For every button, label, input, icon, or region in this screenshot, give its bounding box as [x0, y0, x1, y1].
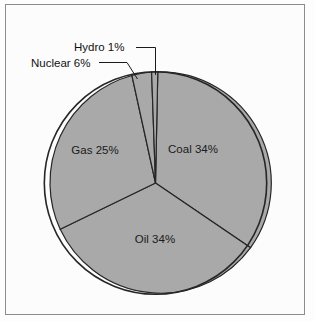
- coal-slice-label: Coal 34%: [168, 143, 218, 155]
- oil-slice-label: Oil 34%: [135, 233, 175, 245]
- nuclear-callout-label: Nuclear 6%: [31, 57, 90, 69]
- pie-chart-figure: Hydro 1% Nuclear 6% Coal 34% Oil 34% Gas…: [0, 0, 315, 321]
- hydro-callout-label: Hydro 1%: [74, 41, 125, 53]
- gas-slice-label: Gas 25%: [71, 144, 118, 156]
- pie-chart-canvas: Hydro 1% Nuclear 6% Coal 34% Oil 34% Gas…: [0, 0, 315, 321]
- hydro-leader-line: [136, 48, 156, 76]
